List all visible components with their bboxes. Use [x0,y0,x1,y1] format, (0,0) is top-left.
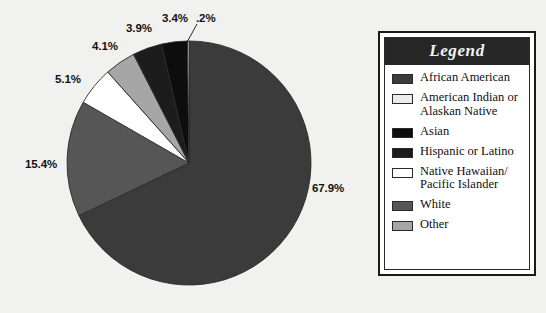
legend-item: White [392,198,523,212]
pie-slice-percent-label: 3.4% [162,12,188,24]
legend-item-label: Other [420,218,448,232]
legend-item: Native Hawaiian/ Pacific Islander [392,165,523,192]
legend-item-label: African American [420,71,510,85]
legend-item: American Indian or Alaskan Native [392,91,523,118]
pie-chart-area: 67.9%15.4%5.1%4.1%3.9%3.4%.2% [0,0,368,313]
legend-panel: Legend African AmericanAmerican Indian o… [378,31,536,276]
legend-swatch-icon [392,74,413,84]
legend-item: Asian [392,125,523,139]
legend-swatch-icon [392,221,413,231]
legend-swatch-icon [392,168,413,178]
legend-title: Legend [385,38,529,65]
pie-slice-percent-label: 5.1% [55,73,81,85]
legend-item-list: African AmericanAmerican Indian or Alask… [385,65,529,269]
pie-chart-svg [0,0,368,313]
legend-item-label: White [420,198,451,212]
legend-item-label: American Indian or Alaskan Native [420,91,518,118]
legend-item: Other [392,218,523,232]
pie-slice-percent-label: 4.1% [92,40,118,52]
pie-slice-percent-label: 15.4% [25,158,57,170]
legend-item-label: Hispanic or Latino [420,145,514,159]
legend-swatch-icon [392,94,413,104]
legend-swatch-icon [392,128,413,138]
pie-slice-percent-label: 3.9% [126,22,152,34]
pie-slice-percent-label: 67.9% [312,182,344,194]
pie-slice-percent-label: .2% [196,12,216,24]
legend-inner-frame: Legend African AmericanAmerican Indian o… [384,37,530,270]
legend-swatch-icon [392,201,413,211]
legend-item-label: Asian [420,125,449,139]
legend-item: Hispanic or Latino [392,145,523,159]
chart-page: 67.9%15.4%5.1%4.1%3.9%3.4%.2% Legend Afr… [0,0,546,313]
legend-item-label: Native Hawaiian/ Pacific Islander [420,165,508,192]
legend-swatch-icon [392,148,413,158]
legend-item: African American [392,71,523,85]
